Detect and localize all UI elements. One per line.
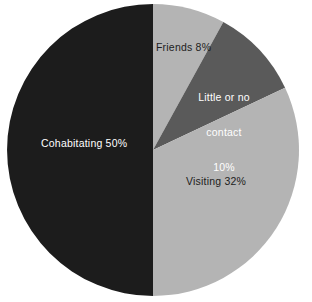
pie-chart: Friends 8% Little or no contact 10% Visi… [0,0,312,302]
pie-slice-cohabitating[interactable] [7,4,153,296]
pie-chart-canvas [0,0,312,302]
